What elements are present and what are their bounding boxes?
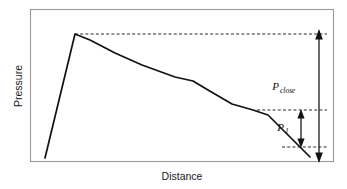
- x-axis-label: Distance: [162, 170, 203, 182]
- p-one-label-base: P: [276, 121, 284, 133]
- p-one-label-subscript: 1: [285, 127, 289, 136]
- p-close-label-base: P: [271, 80, 279, 92]
- pressure-distance-chart: P close P 1 Distance Pressure: [0, 0, 347, 189]
- y-axis-label: Pressure: [12, 65, 24, 107]
- p-close-label-subscript: close: [280, 86, 296, 95]
